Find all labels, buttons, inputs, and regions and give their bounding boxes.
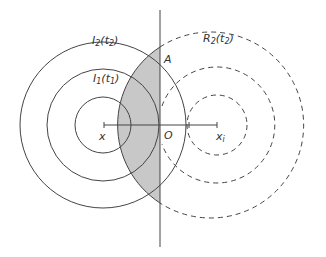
label-A: A: [164, 54, 172, 65]
label-xi: xi: [216, 131, 225, 144]
diagram-svg: [0, 0, 326, 257]
label-I1: I1(t1): [93, 73, 119, 86]
label-I2: I2(t2): [92, 35, 118, 48]
label-R2: R2(t2): [203, 33, 234, 46]
label-O: O: [164, 130, 173, 141]
diagram-canvas: I2(t2) I1(t1) R2(t2) A O x xi: [0, 0, 326, 257]
label-x: x: [99, 131, 106, 142]
